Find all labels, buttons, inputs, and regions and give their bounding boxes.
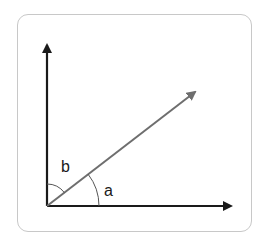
diagonal-ray [47, 92, 195, 206]
angle-b-arc [47, 184, 64, 193]
angle-a-label: a [104, 182, 113, 199]
diagram-stage: b a [0, 0, 266, 247]
angle-diagram: b a [0, 0, 266, 247]
angle-a-arc [88, 174, 99, 206]
angle-b-label: b [61, 158, 70, 175]
